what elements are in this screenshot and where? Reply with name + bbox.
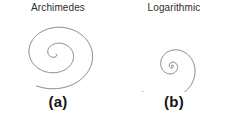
panel-caption-b: (b) xyxy=(164,93,184,110)
logarithmic-spiral-svg xyxy=(116,14,232,92)
panel-title-logarithmic: Logarithmic xyxy=(148,2,201,14)
panel-archimedes: Archimedes (a) xyxy=(0,0,116,123)
panel-title-archimedes: Archimedes xyxy=(31,2,85,14)
logarithmic-spiral-path xyxy=(143,50,195,92)
archimedes-spiral-svg xyxy=(0,14,116,92)
panel-caption-a: (a) xyxy=(49,93,68,110)
spiral-comparison-figure: Archimedes (a) Logarithmic (b) xyxy=(0,0,232,123)
logarithmic-spiral-graphic xyxy=(116,14,232,92)
panel-logarithmic: Logarithmic (b) xyxy=(116,0,232,123)
archimedes-spiral-graphic xyxy=(0,14,116,92)
archimedes-spiral-path xyxy=(29,27,93,88)
